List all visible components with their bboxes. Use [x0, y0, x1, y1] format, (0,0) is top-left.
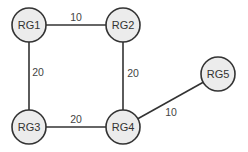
- node-rg5: RG5: [201, 57, 235, 91]
- node-label: RG3: [18, 121, 41, 133]
- node-label: RG4: [112, 121, 135, 133]
- node-label: RG2: [112, 19, 135, 31]
- edge-labels-layer: 1020202010: [32, 11, 177, 125]
- edge-weight-label: 10: [165, 106, 177, 118]
- node-rg4: RG4: [106, 110, 140, 144]
- edge-weight-label: 10: [70, 11, 82, 23]
- edge-weight-label: 20: [70, 113, 82, 125]
- network-diagram: 1020202010 RG1RG2RG3RG4RG5: [0, 0, 248, 152]
- node-rg3: RG3: [12, 110, 46, 144]
- node-rg2: RG2: [106, 8, 140, 42]
- node-label: RG5: [207, 68, 230, 80]
- edge-weight-label: 20: [32, 66, 44, 78]
- node-label: RG1: [18, 19, 41, 31]
- node-rg1: RG1: [12, 8, 46, 42]
- edge-weight-label: 20: [127, 67, 139, 79]
